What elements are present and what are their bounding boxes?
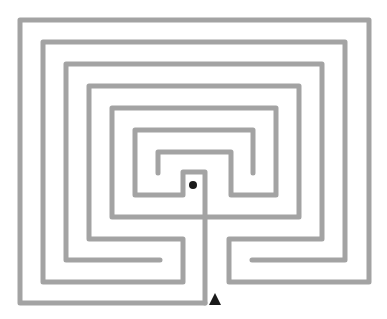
labyrinth-diagram [0,0,387,319]
background [0,0,387,319]
center-goal-dot-icon [189,181,197,189]
